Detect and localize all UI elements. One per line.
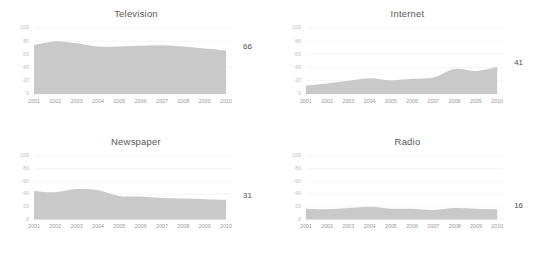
chart-panel-internet: Internet 0204060801002001200220032004200… — [272, 0, 543, 128]
end-value-label: 31 — [243, 191, 252, 200]
y-axis-tick-label: 0 — [26, 216, 29, 222]
y-axis-tick-label: 20 — [295, 77, 301, 83]
y-axis-tick-label: 40 — [23, 64, 29, 70]
y-axis-tick-label: 100 — [20, 152, 29, 158]
y-axis-tick-label: 40 — [23, 191, 29, 197]
x-axis-tick-label: 2006 — [135, 98, 147, 104]
chart-title: Internet — [272, 8, 543, 19]
x-axis-tick-label: 2002 — [49, 223, 61, 229]
x-axis-tick-label: 2003 — [342, 98, 354, 104]
y-axis-tick-label: 60 — [23, 51, 29, 57]
x-axis-tick-label: 2005 — [113, 223, 125, 229]
y-axis-tick-label: 100 — [292, 152, 301, 158]
x-axis-tick-label: 2009 — [470, 223, 482, 229]
x-axis-tick-label: 2004 — [92, 98, 104, 104]
x-axis-tick-label: 2006 — [406, 98, 418, 104]
x-axis-tick-label: 2003 — [342, 223, 354, 229]
x-axis-tick-label: 2004 — [364, 98, 376, 104]
x-axis-tick-label: 2002 — [321, 98, 333, 104]
x-axis-tick-label: 2008 — [177, 223, 189, 229]
y-axis-tick-label: 20 — [23, 203, 29, 209]
plot-area: 0204060801002001200220032004200520062007… — [0, 26, 266, 108]
chart-panel-television: Television 02040608010020012002200320042… — [0, 0, 272, 128]
area-chart-svg: 0204060801002001200220032004200520062007… — [272, 26, 537, 108]
x-axis-tick-label: 2010 — [491, 98, 503, 104]
area-chart-svg: 0204060801002001200220032004200520062007… — [272, 154, 537, 233]
x-axis-tick-label: 2001 — [28, 98, 40, 104]
y-axis-tick-label: 40 — [295, 64, 301, 70]
y-axis-tick-label: 20 — [295, 203, 301, 209]
x-axis-tick-label: 2006 — [406, 223, 418, 229]
chart-title: Newspaper — [0, 136, 272, 147]
x-axis-tick-label: 2007 — [156, 223, 168, 229]
x-axis-tick-label: 2007 — [427, 98, 439, 104]
x-axis-tick-label: 2001 — [300, 98, 312, 104]
y-axis-tick-label: 0 — [26, 90, 29, 96]
chart-title: Television — [0, 8, 272, 19]
y-axis-tick-label: 80 — [295, 38, 301, 44]
x-axis-tick-label: 2002 — [49, 98, 61, 104]
area-chart-svg: 0204060801002001200220032004200520062007… — [0, 26, 266, 108]
x-axis-tick-label: 2005 — [113, 98, 125, 104]
y-axis-tick-label: 0 — [298, 90, 301, 96]
chart-panel-newspaper: Newspaper 020406080100200120022003200420… — [0, 128, 272, 253]
end-value-label: 16 — [514, 201, 524, 210]
plot-area: 0204060801002001200220032004200520062007… — [272, 154, 537, 233]
x-axis-tick-label: 2003 — [71, 223, 83, 229]
y-axis-tick-label: 0 — [298, 216, 301, 222]
x-axis-tick-label: 2008 — [449, 98, 461, 104]
x-axis-tick-label: 2002 — [321, 223, 333, 229]
x-axis-tick-label: 2009 — [470, 98, 482, 104]
y-axis-tick-label: 100 — [292, 24, 301, 30]
x-axis-tick-label: 2008 — [177, 98, 189, 104]
y-axis-tick-label: 80 — [23, 38, 29, 44]
plot-area: 0204060801002001200220032004200520062007… — [0, 154, 266, 233]
chart-panel-radio: Radio 0204060801002001200220032004200520… — [272, 128, 543, 253]
x-axis-tick-label: 2009 — [199, 98, 211, 104]
x-axis-tick-label: 2007 — [156, 98, 168, 104]
x-axis-tick-label: 2003 — [71, 98, 83, 104]
area-series — [34, 189, 226, 220]
x-axis-tick-label: 2006 — [135, 223, 147, 229]
area-series — [306, 207, 497, 220]
end-value-label: 41 — [514, 58, 523, 67]
area-chart-svg: 0204060801002001200220032004200520062007… — [0, 154, 266, 233]
x-axis-tick-label: 2005 — [385, 223, 397, 229]
y-axis-tick-label: 60 — [295, 51, 301, 57]
end-value-label: 66 — [243, 42, 252, 51]
x-axis-tick-label: 2010 — [220, 223, 232, 229]
x-axis-tick-label: 2010 — [491, 223, 503, 229]
x-axis-tick-label: 2001 — [300, 223, 312, 229]
y-axis-tick-label: 20 — [23, 77, 29, 83]
x-axis-tick-label: 2008 — [449, 223, 461, 229]
x-axis-tick-label: 2004 — [364, 223, 376, 229]
y-axis-tick-label: 60 — [295, 178, 301, 184]
y-axis-tick-label: 40 — [295, 191, 301, 197]
y-axis-tick-label: 60 — [23, 178, 29, 184]
chart-title: Radio — [272, 136, 543, 147]
area-series — [34, 41, 226, 94]
y-axis-tick-label: 80 — [295, 165, 301, 171]
y-axis-tick-label: 80 — [23, 165, 29, 171]
x-axis-tick-label: 2005 — [385, 98, 397, 104]
y-axis-tick-label: 100 — [20, 24, 29, 30]
small-multiples-chart-grid: Television 02040608010020012002200320042… — [0, 0, 543, 253]
x-axis-tick-label: 2004 — [92, 223, 104, 229]
plot-area: 0204060801002001200220032004200520062007… — [272, 26, 537, 108]
x-axis-tick-label: 2001 — [28, 223, 40, 229]
x-axis-tick-label: 2010 — [220, 98, 232, 104]
x-axis-tick-label: 2007 — [427, 223, 439, 229]
x-axis-tick-label: 2009 — [199, 223, 211, 229]
area-series — [306, 67, 497, 94]
